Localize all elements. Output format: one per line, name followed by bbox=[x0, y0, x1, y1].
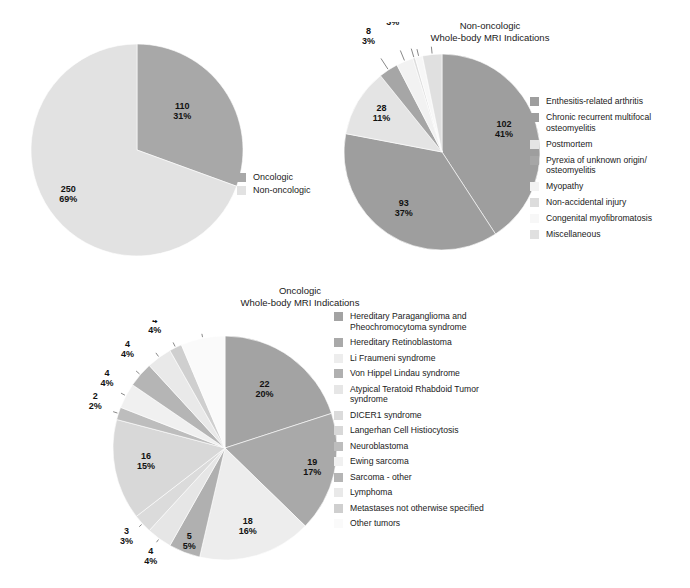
legend-item[interactable]: Chronic recurrent multifocal osteomyelit… bbox=[530, 112, 690, 133]
legend-label: Langerhan Cell Histiocytosis bbox=[350, 425, 458, 436]
label-leader-line bbox=[156, 353, 159, 357]
legend-item[interactable]: Hereditary Retinoblastoma bbox=[334, 337, 584, 348]
legend-label: Non-accidental injury bbox=[546, 197, 626, 208]
legend-item[interactable]: Pyrexia of unknown origin/ osteomyelitis bbox=[530, 155, 690, 176]
legend-label: Congenital myofibromatosis bbox=[546, 213, 652, 224]
legend-label: Metastases not otherwise specified bbox=[350, 503, 484, 514]
pie-slice-label: 44% bbox=[121, 339, 134, 359]
legend-item[interactable]: Non-oncologic bbox=[237, 185, 311, 196]
chart-title-oncologic: Oncologic Whole-body MRI Indications bbox=[180, 285, 420, 308]
legend-swatch-icon bbox=[334, 411, 343, 420]
legend-swatch-icon bbox=[530, 182, 539, 191]
legend-item[interactable]: Sarcoma - other bbox=[334, 472, 584, 483]
pie-chart-oncologic: 2220%1917%1816%55%44%33%1615%22%44%44%44… bbox=[85, 320, 375, 580]
legend-item[interactable]: Metastases not otherwise specified bbox=[334, 503, 584, 514]
legend-swatch-icon bbox=[530, 97, 539, 106]
chart-overview-panel: 11031%25069% OncologicNon-oncologic bbox=[0, 0, 345, 294]
legend-label: Hereditary Paraganglioma and Pheochromoc… bbox=[350, 311, 467, 332]
label-leader-line bbox=[157, 540, 159, 543]
label-leader-line bbox=[411, 49, 414, 57]
legend-swatch-icon bbox=[530, 214, 539, 223]
legend-item[interactable]: Neuroblastoma bbox=[334, 441, 584, 452]
legend-label: Chronic recurrent multifocal osteomyelit… bbox=[546, 112, 651, 133]
legend-label: Hereditary Retinoblastoma bbox=[350, 337, 452, 348]
legend-item[interactable]: Von Hippel Lindau syndrome bbox=[334, 368, 584, 379]
legend-swatch-icon bbox=[334, 457, 343, 466]
pie-slice-label: 83% bbox=[362, 26, 375, 46]
chart-oncologic-panel: Oncologic Whole-body MRI Indications 222… bbox=[0, 285, 690, 588]
legend-swatch-icon bbox=[334, 504, 343, 513]
legend-label: Atypical Teratoid Rhabdoid Tumor syndrom… bbox=[350, 384, 479, 405]
legend-swatch-icon bbox=[530, 230, 539, 239]
pie-chart-nononcologic: 10241%9337%2811%83%73%11%31%83% bbox=[332, 22, 547, 302]
pie-slice-label: 22% bbox=[171, 320, 184, 322]
label-leader-line bbox=[431, 47, 432, 54]
legend-swatch-icon bbox=[237, 173, 246, 182]
legend-label: Miscellaneous bbox=[546, 229, 600, 240]
legend-item[interactable]: Myopathy bbox=[530, 181, 690, 192]
legend-swatch-icon bbox=[334, 338, 343, 347]
legend-nononcologic: Enthesitis-related arthritisChronic recu… bbox=[530, 96, 690, 245]
legend-label: Enthesitis-related arthritis bbox=[546, 96, 643, 107]
legend-item[interactable]: Langerhan Cell Histiocytosis bbox=[334, 425, 584, 436]
legend-label: Non-oncologic bbox=[253, 185, 311, 196]
legend-item[interactable]: Lymphoma bbox=[334, 487, 584, 498]
label-leader-line bbox=[400, 50, 404, 60]
legend-overview: OncologicNon-oncologic bbox=[237, 172, 311, 197]
label-leader-line bbox=[381, 58, 388, 69]
legend-swatch-icon bbox=[334, 488, 343, 497]
legend-swatch-icon bbox=[530, 198, 539, 207]
label-leader-line bbox=[121, 393, 125, 395]
legend-item[interactable]: Other tumors bbox=[334, 518, 584, 529]
pie-slices bbox=[31, 44, 243, 256]
label-leader-line bbox=[202, 334, 203, 337]
label-leader-line bbox=[173, 342, 175, 346]
legend-item[interactable]: Congenital myofibromatosis bbox=[530, 213, 690, 224]
pie-slice-label: 22% bbox=[89, 391, 102, 411]
legend-item[interactable]: Miscellaneous bbox=[530, 229, 690, 240]
pie-slice-label: 44% bbox=[101, 368, 114, 388]
pie-slice-label: 25069% bbox=[59, 184, 77, 204]
legend-label: Li Fraumeni syndrome bbox=[350, 353, 436, 364]
legend-label: Other tumors bbox=[350, 518, 400, 529]
pie-slice-label: 10241% bbox=[495, 119, 513, 139]
legend-label: Pyrexia of unknown origin/ osteomyelitis bbox=[546, 155, 647, 176]
legend-item[interactable]: Li Fraumeni syndrome bbox=[334, 353, 584, 364]
legend-label: Oncologic bbox=[253, 172, 293, 183]
legend-swatch-icon bbox=[334, 426, 343, 435]
legend-label: Von Hippel Lindau syndrome bbox=[350, 368, 460, 379]
pie-slice-label: 11031% bbox=[173, 101, 191, 121]
legend-label: Neuroblastoma bbox=[350, 441, 408, 452]
legend-item[interactable]: Atypical Teratoid Rhabdoid Tumor syndrom… bbox=[334, 384, 584, 405]
legend-item[interactable]: Postmortem bbox=[530, 139, 690, 150]
pie-slice-label: 44% bbox=[148, 320, 161, 335]
legend-label: Ewing sarcoma bbox=[350, 456, 409, 467]
legend-swatch-icon bbox=[334, 473, 343, 482]
chart-nononcologic-panel: Non-oncologic Whole-body MRI Indications… bbox=[330, 0, 690, 300]
legend-swatch-icon bbox=[334, 312, 343, 321]
legend-item[interactable]: Hereditary Paraganglioma and Pheochromoc… bbox=[334, 311, 584, 332]
legend-label: Myopathy bbox=[546, 181, 583, 192]
legend-item[interactable]: Oncologic bbox=[237, 172, 311, 183]
legend-item[interactable]: DICER1 syndrome bbox=[334, 410, 584, 421]
legend-swatch-icon bbox=[334, 442, 343, 451]
legend-item[interactable]: Ewing sarcoma bbox=[334, 456, 584, 467]
legend-swatch-icon bbox=[530, 113, 539, 122]
pie-chart-overview: 11031%25069% bbox=[12, 22, 312, 282]
pie-slices bbox=[344, 54, 540, 250]
legend-item[interactable]: Non-accidental injury bbox=[530, 197, 690, 208]
legend-swatch-icon bbox=[334, 385, 343, 394]
legend-label: DICER1 syndrome bbox=[350, 410, 422, 421]
legend-oncologic: Hereditary Paraganglioma and Pheochromoc… bbox=[334, 311, 584, 534]
legend-swatch-icon bbox=[237, 186, 246, 195]
legend-swatch-icon bbox=[334, 369, 343, 378]
pie-slice-label: 73% bbox=[386, 22, 399, 27]
legend-swatch-icon bbox=[530, 140, 539, 149]
legend-item[interactable]: Enthesitis-related arthritis bbox=[530, 96, 690, 107]
legend-swatch-icon bbox=[334, 519, 343, 528]
pie-slice-label: 44% bbox=[144, 546, 157, 566]
label-leader-line bbox=[113, 412, 117, 413]
label-leader-line bbox=[139, 524, 141, 526]
legend-swatch-icon bbox=[530, 156, 539, 165]
legend-label: Postmortem bbox=[546, 139, 592, 150]
